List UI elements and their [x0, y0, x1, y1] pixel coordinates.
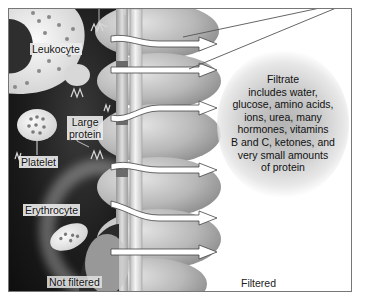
erythrocyte-cell [46, 218, 92, 257]
large-protein-line2: protein [69, 128, 101, 140]
filtrate-line: very small amounts [221, 149, 345, 162]
filtrate-line: glucose, amino acids, [221, 98, 345, 111]
filtrate-line: Filtrate [221, 73, 345, 86]
not-filtered-label: Not filtered [47, 276, 102, 288]
large-protein-line1: Large [72, 116, 99, 128]
platelet-label: Platelet [19, 156, 58, 168]
filtrate-description: Filtrate includes water, glucose, amino … [221, 73, 345, 174]
large-protein-label: Large protein [67, 116, 103, 140]
filtrate-line: hormones, vitamins [221, 123, 345, 136]
filtrate-line: includes water, [221, 86, 345, 99]
platelet-cell [17, 109, 57, 155]
filtrate-line: of protein [221, 161, 345, 174]
filtrate-line: ions, urea, many [221, 111, 345, 124]
leukocyte-label: Leukocyte [30, 43, 82, 55]
diagram-frame: Filtrate includes water, glucose, amino … [8, 8, 352, 292]
erythrocyte-label: Erythrocyte [23, 204, 80, 216]
filtration-diagram: Filtrate includes water, glucose, amino … [0, 0, 365, 304]
filtered-label: Filtered [241, 277, 276, 289]
filtrate-line: B and C, ketones, and [221, 136, 345, 149]
